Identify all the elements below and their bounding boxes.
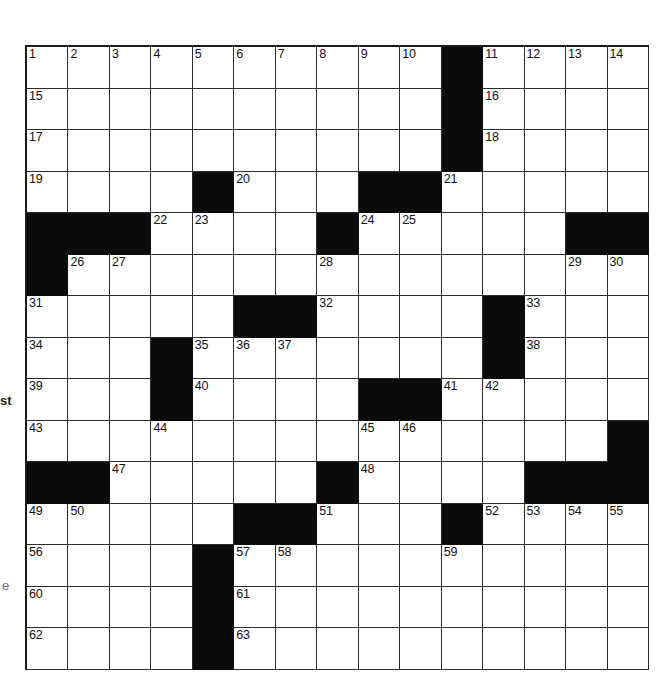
grid-cell[interactable] [110, 587, 151, 629]
grid-cell[interactable] [359, 587, 400, 629]
grid-cell[interactable] [276, 628, 317, 670]
grid-cell[interactable]: 21 [442, 172, 483, 214]
grid-cell[interactable] [193, 255, 234, 297]
grid-cell[interactable] [193, 462, 234, 504]
grid-cell[interactable] [234, 379, 275, 421]
grid-cell[interactable]: 18 [483, 130, 524, 172]
grid-cell[interactable] [442, 255, 483, 297]
grid-cell[interactable] [400, 89, 441, 131]
grid-cell[interactable] [193, 504, 234, 546]
grid-cell[interactable]: 6 [234, 47, 275, 89]
grid-cell[interactable] [483, 172, 524, 214]
grid-cell[interactable]: 39 [27, 379, 68, 421]
grid-cell[interactable]: 60 [27, 587, 68, 629]
grid-cell[interactable] [442, 213, 483, 255]
grid-cell[interactable] [359, 255, 400, 297]
grid-cell[interactable]: 41 [442, 379, 483, 421]
grid-cell[interactable] [151, 587, 192, 629]
grid-cell[interactable] [151, 628, 192, 670]
grid-cell[interactable] [276, 213, 317, 255]
grid-cell[interactable] [483, 545, 524, 587]
grid-cell[interactable] [525, 89, 566, 131]
grid-cell[interactable] [400, 628, 441, 670]
grid-cell[interactable] [68, 130, 109, 172]
grid-cell[interactable] [151, 545, 192, 587]
grid-cell[interactable]: 23 [193, 213, 234, 255]
grid-cell[interactable] [566, 421, 607, 463]
grid-cell[interactable] [566, 130, 607, 172]
grid-cell[interactable]: 43 [27, 421, 68, 463]
grid-cell[interactable] [317, 130, 358, 172]
grid-cell[interactable]: 53 [525, 504, 566, 546]
grid-cell[interactable] [110, 379, 151, 421]
grid-cell[interactable] [151, 296, 192, 338]
grid-cell[interactable] [276, 130, 317, 172]
grid-cell[interactable]: 29 [566, 255, 607, 297]
grid-cell[interactable] [359, 504, 400, 546]
grid-cell[interactable] [608, 296, 649, 338]
grid-cell[interactable] [234, 89, 275, 131]
grid-cell[interactable] [359, 296, 400, 338]
grid-cell[interactable] [193, 130, 234, 172]
grid-cell[interactable]: 14 [608, 47, 649, 89]
grid-cell[interactable]: 16 [483, 89, 524, 131]
grid-cell[interactable]: 42 [483, 379, 524, 421]
grid-cell[interactable] [110, 89, 151, 131]
grid-cell[interactable]: 17 [27, 130, 68, 172]
grid-cell[interactable] [566, 587, 607, 629]
grid-cell[interactable]: 1 [27, 47, 68, 89]
grid-cell[interactable]: 7 [276, 47, 317, 89]
grid-cell[interactable] [525, 255, 566, 297]
grid-cell[interactable] [442, 296, 483, 338]
grid-cell[interactable] [317, 628, 358, 670]
grid-cell[interactable]: 11 [483, 47, 524, 89]
grid-cell[interactable] [400, 296, 441, 338]
grid-cell[interactable]: 30 [608, 255, 649, 297]
grid-cell[interactable] [608, 172, 649, 214]
grid-cell[interactable]: 22 [151, 213, 192, 255]
grid-cell[interactable]: 2 [68, 47, 109, 89]
grid-cell[interactable]: 27 [110, 255, 151, 297]
grid-cell[interactable] [608, 587, 649, 629]
grid-cell[interactable]: 19 [27, 172, 68, 214]
grid-cell[interactable] [483, 213, 524, 255]
grid-cell[interactable]: 48 [359, 462, 400, 504]
grid-cell[interactable] [608, 545, 649, 587]
grid-cell[interactable] [566, 172, 607, 214]
grid-cell[interactable] [442, 628, 483, 670]
grid-cell[interactable]: 13 [566, 47, 607, 89]
grid-cell[interactable] [525, 379, 566, 421]
grid-cell[interactable] [68, 296, 109, 338]
grid-cell[interactable] [276, 421, 317, 463]
grid-cell[interactable] [193, 296, 234, 338]
grid-cell[interactable] [317, 172, 358, 214]
grid-cell[interactable] [68, 172, 109, 214]
grid-cell[interactable] [151, 255, 192, 297]
grid-cell[interactable]: 36 [234, 338, 275, 380]
grid-cell[interactable]: 33 [525, 296, 566, 338]
grid-cell[interactable] [566, 89, 607, 131]
grid-cell[interactable] [400, 504, 441, 546]
grid-cell[interactable]: 31 [27, 296, 68, 338]
grid-cell[interactable] [110, 172, 151, 214]
grid-cell[interactable] [442, 462, 483, 504]
grid-cell[interactable]: 40 [193, 379, 234, 421]
grid-cell[interactable] [234, 255, 275, 297]
grid-cell[interactable]: 61 [234, 587, 275, 629]
grid-cell[interactable] [151, 504, 192, 546]
grid-cell[interactable] [234, 213, 275, 255]
grid-cell[interactable]: 52 [483, 504, 524, 546]
grid-cell[interactable]: 51 [317, 504, 358, 546]
grid-cell[interactable] [68, 628, 109, 670]
grid-cell[interactable] [276, 462, 317, 504]
grid-cell[interactable] [608, 130, 649, 172]
grid-cell[interactable] [151, 130, 192, 172]
grid-cell[interactable] [525, 545, 566, 587]
grid-cell[interactable] [566, 338, 607, 380]
grid-cell[interactable]: 54 [566, 504, 607, 546]
grid-cell[interactable]: 50 [68, 504, 109, 546]
grid-cell[interactable] [234, 462, 275, 504]
grid-cell[interactable] [151, 172, 192, 214]
grid-cell[interactable] [359, 338, 400, 380]
grid-cell[interactable]: 63 [234, 628, 275, 670]
